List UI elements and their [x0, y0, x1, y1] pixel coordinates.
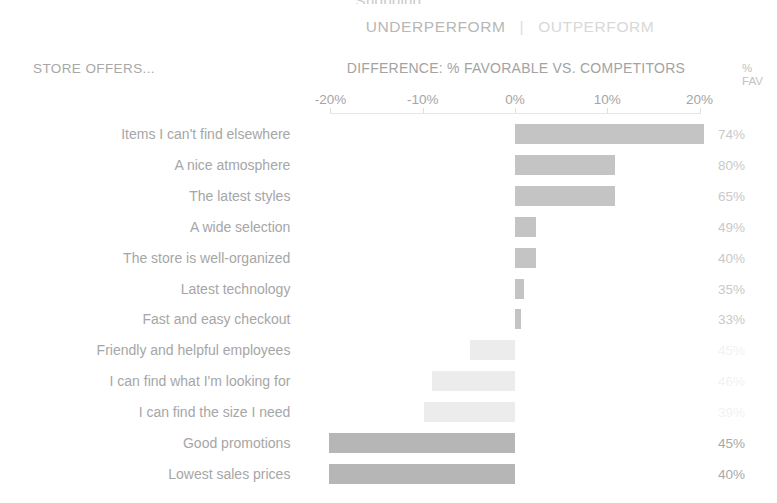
x-tick-label-neg10: -10% [407, 92, 439, 107]
chart-row: Latest technology35% [0, 274, 777, 305]
x-tick-label-20: 20% [686, 92, 713, 107]
x-tick-label-10: 10% [594, 92, 621, 107]
x-tick-label-0: 0% [505, 92, 525, 107]
fav-percent-value: 40% [718, 243, 766, 274]
category-label: I can find the size I need [18, 397, 290, 428]
value-axis-title: DIFFERENCE: % FAVORABLE VS. COMPETITORS [290, 60, 742, 76]
fav-header-line1: % [742, 62, 776, 75]
fav-header-line2: FAV [742, 75, 776, 88]
bar-positive [515, 124, 704, 144]
category-label: The store is well-organized [18, 243, 290, 274]
bar-positive [515, 309, 521, 329]
category-label: Good promotions [18, 428, 290, 459]
bar-positive [515, 186, 615, 206]
fav-percent-value: 35% [718, 274, 766, 305]
fav-percent-value: 80% [718, 150, 766, 181]
category-label: Friendly and helpful employees [18, 335, 290, 366]
fav-percent-value: 39% [718, 397, 766, 428]
bar-negative [424, 402, 515, 422]
chart-row: Friendly and helpful employees45% [0, 335, 777, 366]
bar-negative [329, 464, 515, 484]
category-label: Latest technology [18, 274, 290, 305]
chart-row: I can find the size I need39% [0, 397, 777, 428]
fav-percent-value: 74% [718, 119, 766, 150]
bar-positive [515, 248, 536, 268]
chart-row: Items I can't find elsewhere74% [0, 119, 777, 150]
category-label: Lowest sales prices [18, 459, 290, 490]
fav-percent-value: 40% [718, 459, 766, 490]
cut-off-chart-title: Shopping [0, 0, 777, 4]
category-label: A wide selection [18, 212, 290, 243]
category-label: The latest styles [18, 181, 290, 212]
chart-row: The store is well-organized40% [0, 243, 777, 274]
chart-row: Lowest sales prices40% [0, 459, 777, 490]
bar-positive [515, 217, 536, 237]
bar-negative [470, 340, 515, 360]
fav-percent-value: 65% [718, 181, 766, 212]
category-label: A nice atmosphere [18, 150, 290, 181]
bar-negative [432, 371, 515, 391]
legend-separator: | [519, 18, 524, 36]
bar-positive [515, 155, 615, 175]
bar-negative [329, 433, 515, 453]
x-axis-line [330, 113, 699, 114]
fav-percent-value: 33% [718, 304, 766, 335]
chart-row: A nice atmosphere80% [0, 150, 777, 181]
performance-legend: UNDERPERFORM | OUTPERFORM [300, 16, 720, 38]
x-tick-label-neg20: -20% [315, 92, 347, 107]
category-label: Items I can't find elsewhere [18, 119, 290, 150]
fav-percent-value: 45% [718, 335, 766, 366]
fav-percent-value: 49% [718, 212, 766, 243]
x-tick-mark [700, 108, 701, 114]
category-label: Fast and easy checkout [18, 304, 290, 335]
chart-row: A wide selection49% [0, 212, 777, 243]
fav-column-header: % FAV [742, 62, 776, 88]
store-offers-diverging-bar-chart: Shopping UNDERPERFORM | OUTPERFORM STORE… [0, 0, 777, 503]
fav-percent-value: 45% [718, 428, 766, 459]
chart-row: Fast and easy checkout33% [0, 304, 777, 335]
chart-row: I can find what I'm looking for46% [0, 366, 777, 397]
chart-row: Good promotions45% [0, 428, 777, 459]
category-label: I can find what I'm looking for [18, 366, 290, 397]
fav-percent-value: 46% [718, 366, 766, 397]
legend-outperform: OUTPERFORM [538, 18, 654, 36]
bar-positive [515, 279, 524, 299]
chart-row: The latest styles65% [0, 181, 777, 212]
legend-underperform: UNDERPERFORM [366, 18, 506, 36]
row-axis-title: STORE OFFERS... [33, 61, 155, 76]
